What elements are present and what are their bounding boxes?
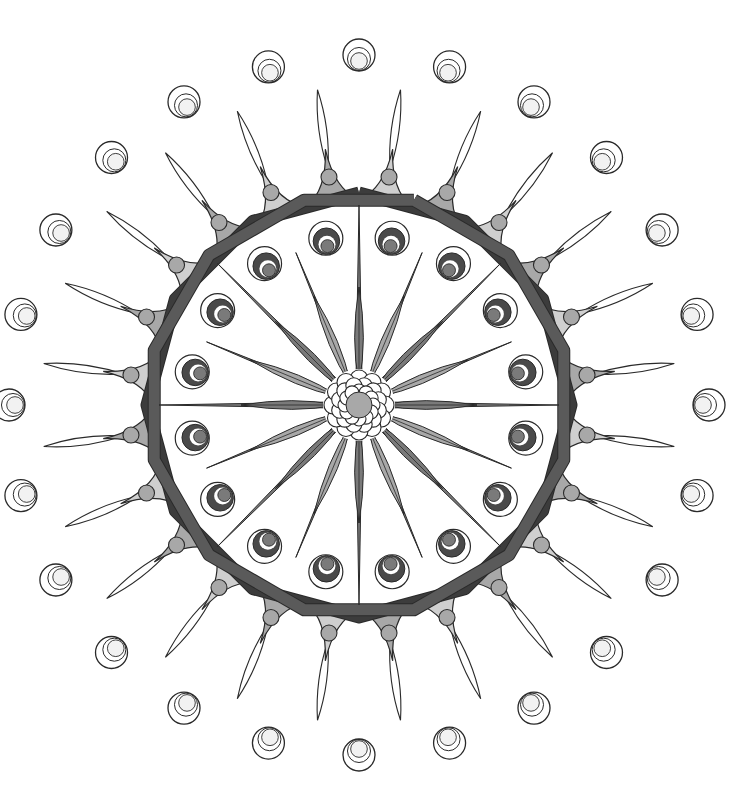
cusp-dot [491, 579, 507, 595]
center-flower [323, 369, 395, 441]
outer-circle-core [594, 640, 611, 657]
outer-circle-core [53, 225, 70, 242]
inner-circle-core [194, 367, 207, 380]
outer-circle-core [695, 397, 712, 414]
cusp-dot [563, 309, 579, 325]
inner-circle-core [218, 309, 231, 322]
inner-circle-core [384, 557, 397, 570]
cusp-dot [321, 169, 337, 185]
cusp-dot [139, 309, 155, 325]
cusp-dot [579, 367, 595, 383]
cusp-dot [491, 215, 507, 231]
outer-circle-core [18, 486, 35, 503]
inner-circle-core [263, 264, 276, 277]
inner-circle-core [443, 264, 456, 277]
inner-circle-core [384, 240, 397, 253]
cusp-dot [211, 215, 227, 231]
outer-circle-core [262, 729, 279, 746]
outer-circle-core [683, 486, 700, 503]
cusp-dot [533, 537, 549, 553]
cusp-dot [321, 625, 337, 641]
inner-circle-core [443, 533, 456, 546]
mandala-artwork [0, 0, 754, 812]
cusp-dot [439, 185, 455, 201]
outer-circle-core [179, 99, 196, 116]
outer-circle-core [107, 640, 124, 657]
cusp-dot [381, 169, 397, 185]
cusp-dot [263, 609, 279, 625]
cusp-dot [563, 485, 579, 501]
cusp-dot [439, 609, 455, 625]
outer-circle-core [683, 308, 700, 325]
outer-circle-core [649, 225, 666, 242]
outer-circle-core [523, 695, 540, 712]
cusp-dot [169, 257, 185, 273]
outer-circle-core [7, 397, 24, 414]
inner-circle-core [321, 240, 334, 253]
outer-circle-core [351, 53, 368, 70]
cusp-dot [579, 427, 595, 443]
outer-circle-core [107, 153, 124, 170]
cusp-dot [123, 427, 139, 443]
inner-circle-core [263, 533, 276, 546]
inner-circle-core [194, 430, 207, 443]
outer-circle-core [523, 99, 540, 116]
outer-circle-core [18, 308, 35, 325]
outer-circle-core [649, 569, 666, 586]
inner-circle-core [511, 430, 524, 443]
cusp-dot [263, 185, 279, 201]
inner-circle-core [218, 489, 231, 502]
cusp-dot [381, 625, 397, 641]
outer-circle-core [179, 695, 196, 712]
cusp-dot [123, 367, 139, 383]
outer-circle-core [594, 153, 611, 170]
outer-circle-core [53, 569, 70, 586]
outer-circle-core [262, 64, 279, 81]
cusp-dot [211, 579, 227, 595]
cusp-dot [139, 485, 155, 501]
inner-circle-core [511, 367, 524, 380]
cusp-dot [533, 257, 549, 273]
outer-circle-core [440, 64, 457, 81]
outer-circle-core [440, 729, 457, 746]
inner-circle-core [487, 309, 500, 322]
inner-circle-core [487, 489, 500, 502]
cusp-dot [169, 537, 185, 553]
outer-circle-core [351, 741, 368, 758]
inner-circle-core [321, 557, 334, 570]
flower-core [346, 392, 372, 418]
